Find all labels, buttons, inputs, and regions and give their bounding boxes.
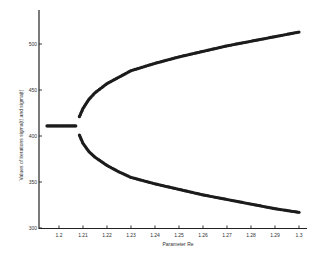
data-point [74, 124, 77, 127]
axes [39, 10, 307, 229]
x-tick-label: 1.23 [126, 232, 136, 238]
y-tick-label: 400 [29, 133, 38, 139]
x-tick-label: 1.27 [222, 232, 232, 238]
series-upper-branch [78, 30, 301, 118]
bifurcation-chart: 1.21.211.221.231.241.251.261.271.281.291… [0, 0, 327, 258]
y-tick-label: 300 [29, 225, 38, 231]
x-tick-label: 1.2 [56, 232, 63, 238]
x-ticks: 1.21.211.221.231.241.251.261.271.281.291… [56, 226, 303, 239]
x-tick-label: 1.24 [150, 232, 160, 238]
x-tick-label: 1.3 [296, 232, 303, 238]
y-axis-title: Values of iterations sigma(t) and sigma(… [18, 89, 24, 180]
data-point [297, 211, 300, 214]
series-lower-branch [78, 133, 301, 213]
x-tick-label: 1.28 [246, 232, 256, 238]
y-tick-label: 500 [29, 41, 38, 47]
x-tick-label: 1.26 [198, 232, 208, 238]
x-axis-title: Parameter Re [162, 241, 193, 247]
y-ticks: 300350400450500 [29, 41, 42, 231]
data-point [297, 30, 300, 33]
x-tick-label: 1.29 [270, 232, 280, 238]
y-tick-label: 450 [29, 87, 38, 93]
y-tick-label: 350 [29, 179, 38, 185]
x-tick-label: 1.21 [78, 232, 88, 238]
data-series [45, 30, 300, 214]
series-stable-fixed-point [45, 124, 77, 127]
x-tick-label: 1.25 [174, 232, 184, 238]
x-tick-label: 1.22 [102, 232, 112, 238]
